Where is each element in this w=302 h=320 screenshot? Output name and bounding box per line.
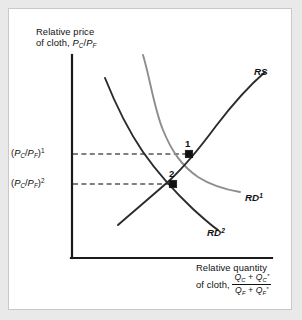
y-axis-sub-f: F: [93, 42, 97, 49]
curve-label-rd1-superscript: 1: [259, 192, 263, 199]
frac-den-q2: Q: [256, 285, 263, 295]
equilibrium-label-2: 2: [169, 168, 174, 180]
equilibrium-label-1: 1: [185, 138, 190, 150]
frac-num-plus: +: [246, 273, 256, 283]
y-axis-title-line1: Relative price: [36, 26, 94, 37]
x-axis-fraction-numerator: QC + QC*: [232, 273, 271, 285]
y-tick-label-price-2: (PC/PF)2: [11, 177, 44, 189]
x-axis-title: Relative quantity of cloth, QC + QC*QF +…: [196, 262, 271, 296]
equilibrium-marker-1: [185, 150, 193, 158]
frac-den-q1: Q: [235, 285, 242, 295]
y-tick-label-price-1: (PC/PF)1: [11, 147, 44, 159]
frac-num-q2: Q: [256, 273, 263, 283]
curve-label-rd1: RD1: [245, 192, 263, 204]
y-axis-title: Relative price of cloth, PC/PF: [36, 26, 97, 50]
y-axis-title-line2-prefix: of cloth,: [36, 37, 72, 48]
x-axis-title-line2-prefix: of cloth,: [196, 279, 232, 290]
curve-label-rd2-superscript: 2: [221, 227, 225, 234]
figure-root: Relative price of cloth, PC/PF Relative …: [0, 0, 302, 320]
tick2-superscript: 2: [41, 177, 45, 184]
x-axis-fraction-denominator: QF + QF*: [232, 285, 271, 296]
frac-den-plus: +: [246, 285, 256, 295]
curve-label-rs: RS: [254, 66, 268, 78]
frac-num-star: *: [267, 273, 269, 279]
curve-label-rd2: RD2: [207, 227, 225, 239]
x-axis-title-line1: Relative quantity: [196, 262, 267, 273]
tick1-superscript: 1: [41, 147, 45, 154]
curve-label-rd2-base: RD: [207, 227, 221, 238]
frac-den-star: *: [266, 286, 268, 292]
curve-label-rd1-base: RD: [245, 192, 259, 203]
x-axis-fraction: QC + QC*QF + QF*: [232, 273, 271, 296]
equilibrium-marker-2: [169, 180, 177, 188]
